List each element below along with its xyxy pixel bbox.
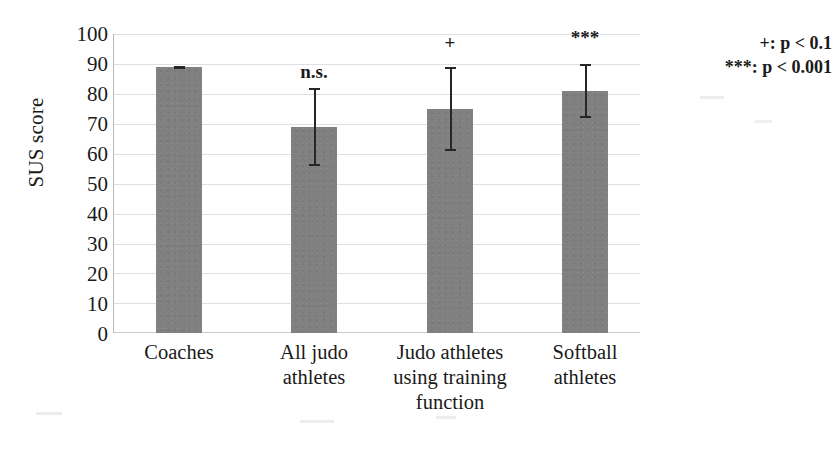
x-tick-label-line: athletes [519, 365, 651, 390]
x-tick-label-coaches: Coaches [113, 340, 245, 365]
errorbar-cap-bottom [445, 149, 456, 151]
y-tick-label: 50 [44, 174, 108, 195]
y-tick-label: 0 [44, 324, 108, 345]
y-tick-label: 30 [44, 234, 108, 255]
errorbar-cap-bottom [309, 164, 320, 166]
x-tick-label-line: athletes [248, 365, 380, 390]
significance-annotation-judo-athletes-training-function: + [410, 33, 490, 52]
x-tick-label-line: Judo athletes [384, 340, 516, 365]
y-tick-label: 100 [44, 24, 108, 45]
x-tick-label-line: Coaches [113, 340, 245, 365]
scan-speck [754, 120, 772, 123]
y-tick-label: 80 [44, 84, 108, 105]
x-axis-tick-labels: Coaches All judo athletes Judo athletes … [113, 340, 640, 440]
errorbar-cap-top [445, 67, 456, 69]
errorbar-judo-athletes-training-function [445, 67, 456, 151]
y-tick-label: 60 [44, 144, 108, 165]
legend-entry: +: p < 0.1 [656, 31, 832, 55]
y-tick-label: 10 [44, 294, 108, 315]
gridline-90 [113, 64, 640, 65]
significance-annotation-softball-athletes: *** [545, 28, 625, 47]
plot-area: n.s. + *** [113, 34, 640, 333]
x-tick-label-line: function [384, 390, 516, 415]
bar-softball-athletes [562, 91, 608, 333]
x-tick-label-softball-athletes: Softball athletes [519, 340, 651, 390]
scan-speck [36, 412, 62, 415]
significance-legend: +: p < 0.1 ***: p < 0.001 [656, 31, 832, 79]
significance-annotation-all-judo-athletes: n.s. [274, 62, 354, 81]
y-axis-line [113, 34, 114, 333]
errorbar-stem [585, 64, 587, 118]
errorbar-stem [314, 88, 316, 166]
bar-chart-figure: SUS score 100 90 80 70 60 50 40 30 20 10… [0, 0, 837, 452]
y-tick-label: 40 [44, 204, 108, 225]
errorbar-cap-bottom [580, 116, 591, 118]
legend-entry: ***: p < 0.001 [656, 55, 832, 79]
scan-speck [700, 96, 724, 99]
scan-speck [436, 416, 456, 419]
errorbar-all-judo-athletes [309, 88, 320, 166]
x-tick-label-line: using training [384, 365, 516, 390]
errorbar-softball-athletes [580, 64, 591, 118]
errorbar-coaches [174, 66, 185, 69]
x-tick-label-line: Softball [519, 340, 651, 365]
y-axis-tick-labels: 100 90 80 70 60 50 40 30 20 10 0 [44, 0, 108, 452]
y-tick-label: 90 [44, 54, 108, 75]
scan-speck [300, 420, 334, 423]
x-tick-label-all-judo-athletes: All judo athletes [248, 340, 380, 390]
y-tick-label: 70 [44, 114, 108, 135]
bar-coaches [156, 67, 202, 333]
y-tick-label: 20 [44, 264, 108, 285]
x-tick-label-line: All judo [248, 340, 380, 365]
x-tick-label-judo-athletes-training-function: Judo athletes using training function [384, 340, 516, 415]
errorbar-cap-bottom [174, 67, 185, 69]
errorbar-stem [450, 67, 452, 151]
errorbar-cap-top [309, 88, 320, 90]
errorbar-cap-top [580, 64, 591, 66]
